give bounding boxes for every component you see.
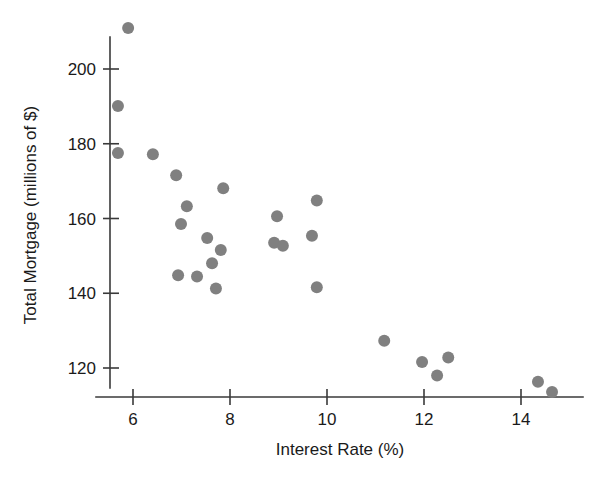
data-point: [311, 281, 323, 293]
data-point: [215, 244, 227, 256]
y-tick-label: 120: [68, 359, 96, 378]
x-axis-ticks: 68101214: [128, 389, 530, 429]
y-tick-label: 160: [68, 210, 96, 229]
scatter-chart: 120140160180200 68101214 Interest Rate (…: [0, 0, 591, 480]
x-axis-title: Interest Rate (%): [276, 440, 405, 459]
data-point: [311, 195, 323, 207]
data-point: [546, 386, 558, 398]
data-point: [147, 148, 159, 160]
x-tick-label: 6: [128, 410, 137, 429]
y-tick-label: 200: [68, 60, 96, 79]
data-point: [210, 282, 222, 294]
data-point: [191, 270, 203, 282]
data-point: [532, 376, 544, 388]
data-point: [306, 230, 318, 242]
data-point: [277, 240, 289, 252]
data-point: [206, 257, 218, 269]
x-tick-label: 12: [415, 410, 434, 429]
y-axis-title: Total Mortgage (millions of $): [21, 106, 40, 324]
data-point: [172, 269, 184, 281]
y-tick-label: 140: [68, 284, 96, 303]
x-tick-label: 14: [512, 410, 531, 429]
data-point: [122, 22, 134, 34]
data-point: [416, 356, 428, 368]
data-point: [217, 182, 229, 194]
data-point: [112, 100, 124, 112]
data-point: [170, 169, 182, 181]
data-point: [201, 232, 213, 244]
x-tick-label: 10: [318, 410, 337, 429]
plot-canvas: 120140160180200 68101214 Interest Rate (…: [0, 0, 591, 480]
data-point: [378, 335, 390, 347]
data-point: [442, 352, 454, 364]
data-points-layer: [112, 22, 558, 398]
x-tick-label: 8: [225, 410, 234, 429]
data-point: [112, 147, 124, 159]
y-axis-ticks: 120140160180200: [68, 60, 119, 378]
data-point: [271, 210, 283, 222]
data-point: [181, 200, 193, 212]
data-point: [175, 218, 187, 230]
y-tick-label: 180: [68, 135, 96, 154]
data-point: [431, 369, 443, 381]
